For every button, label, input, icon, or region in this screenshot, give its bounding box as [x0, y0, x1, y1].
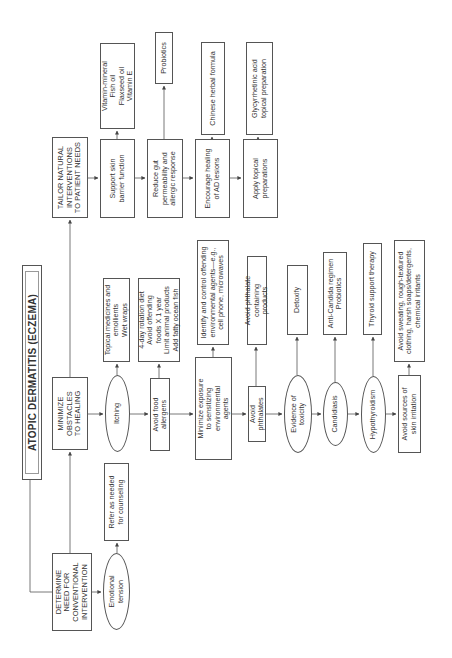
food-action-box: 4-day rotation diet Avoid offending food…: [138, 278, 180, 362]
env-agents-box: Minimize exposure to sensitizing environ…: [195, 357, 232, 460]
hypothyroidism-action-box: Thyroid support therapy: [363, 243, 382, 335]
skin-barrier-box: Support skin barrier function: [100, 139, 135, 218]
ad-lesions-box: Encourage healing of AD lesions: [195, 139, 230, 218]
candidiasis-action-box: Anti-Candida regimen Probiotics: [323, 252, 347, 335]
candidiasis-node: Candidiasis: [323, 382, 348, 446]
gut-action-box: Probiotics: [155, 32, 173, 84]
itching-action-box: Topical medicines and emollients Wet wra…: [103, 278, 130, 362]
toxicity-node: Evidence of toxicity: [284, 375, 312, 453]
lesions-action-box: Chinese herbal formula: [201, 42, 225, 135]
food-allergens-box: Avoid food allergens: [150, 378, 170, 451]
topical-preparations-box: Apply topical preparations: [243, 139, 278, 218]
step-tailor-interventions: TAILOR NATURAL INTERVENTIONS TO PATIENT …: [52, 137, 88, 218]
gut-permeability-box: Reduce gut permeability and allergic res…: [147, 139, 183, 218]
emotional-tension-node: Emotional tension: [103, 553, 130, 630]
skin-barrier-action-box: Vitamin-mineral Fish oil Flaxseed oil Vi…: [100, 43, 135, 129]
skin-irritation-action-box: Avoid sweating, rough-textured clothing,…: [394, 240, 425, 362]
skin-irritation-box: Avoid sources of skin irritation: [398, 375, 421, 453]
step-minimize-obstacles: MINIMIZE OBSTACLES TO HEALING: [52, 377, 88, 450]
topical-action-box: Glycyrrhetinic acid topical preparation: [246, 42, 273, 135]
itching-node: Itching: [105, 375, 130, 452]
flowchart-canvas: ATOPIC DERMATITIS (ECZEMA) DETERMINE NEE…: [0, 0, 452, 658]
refer-counseling-box: Refer as needed for counseling: [104, 463, 129, 541]
step-determine-conventional: DETERMINE NEED FOR CONVENTIONAL INTERVEN…: [52, 553, 92, 631]
diagram-title: ATOPIC DERMATITIS (ECZEMA): [22, 265, 42, 480]
phthalates-action-box: Avoid phthalate containing products: [247, 256, 267, 345]
phthalates-box: Avoid phthalates: [248, 386, 266, 442]
detoxify-box: Detoxify: [287, 265, 308, 335]
hypothyroidism-node: Hypothyroidism: [361, 376, 386, 453]
env-action-box: Identify and control offending environme…: [197, 240, 229, 345]
